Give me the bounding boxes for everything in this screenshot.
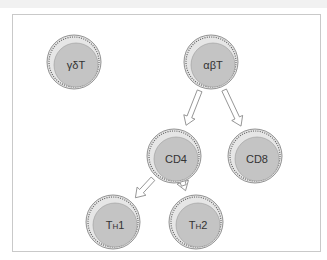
cell-TH1: TH1 bbox=[86, 195, 140, 249]
cell-label: αβT bbox=[203, 59, 223, 71]
lineage-diagram: γδTαβTCD4CD8TH1TH2 bbox=[0, 0, 327, 260]
arrow-abT-to-CD8 bbox=[222, 89, 243, 126]
cell-CD4: CD4 bbox=[147, 129, 201, 183]
cell-label: γδT bbox=[67, 59, 86, 71]
arrow-abT-to-CD4 bbox=[184, 90, 202, 125]
cell-abT: αβT bbox=[184, 35, 238, 89]
cell-TH2: TH2 bbox=[169, 195, 223, 249]
cell-CD8: CD8 bbox=[228, 129, 282, 183]
cell-gdT: γδT bbox=[47, 35, 101, 89]
cell-label: CD4 bbox=[165, 153, 187, 165]
arrow-CD4-to-TH1 bbox=[135, 177, 154, 198]
cell-label: CD8 bbox=[246, 153, 268, 165]
